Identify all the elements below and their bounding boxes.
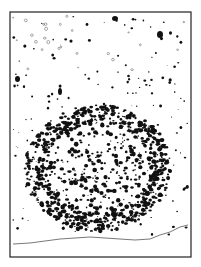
stone-distribution-plan	[0, 0, 201, 267]
